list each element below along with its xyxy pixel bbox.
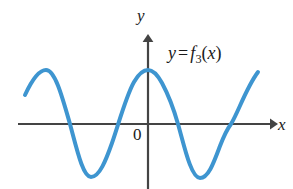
equation-close-paren: ) (216, 43, 222, 63)
function-graph-figure: y x 0 y=f3(x) (0, 0, 293, 189)
equation-equals-sign: = (176, 43, 190, 63)
plot-canvas (0, 0, 293, 189)
function-equation-label: y=f3(x) (168, 44, 222, 66)
x-axis-label: x (278, 116, 286, 133)
origin-label: 0 (133, 126, 142, 143)
equation-arg-term: x (208, 43, 216, 63)
equation-y-term: y (168, 43, 176, 63)
x-axis-arrowhead (270, 119, 278, 130)
y-axis-arrowhead (143, 34, 154, 42)
y-axis-label: y (137, 7, 145, 24)
